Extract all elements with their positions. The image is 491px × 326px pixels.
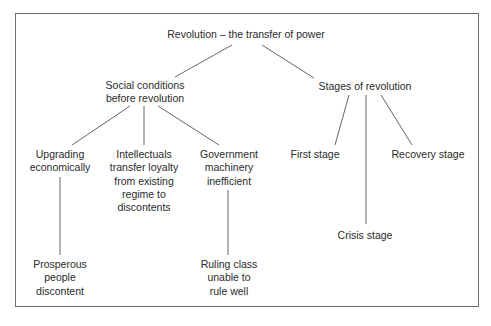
node-crisis-label: Crisis stage — [338, 229, 393, 241]
node-label-line: regime to — [110, 188, 178, 201]
node-stages: Stages of revolution — [319, 80, 412, 93]
node-recovery-stage: Recovery stage — [392, 148, 465, 161]
node-label-line: Government — [200, 148, 258, 161]
node-label-line: economically — [30, 161, 91, 174]
node-label-line: before revolution — [106, 92, 185, 105]
node-recovery-label: Recovery stage — [392, 148, 465, 160]
node-stages-label: Stages of revolution — [319, 80, 412, 92]
node-government: Government machinery inefficient — [200, 148, 258, 188]
node-label-line: machinery — [200, 161, 258, 174]
link-stages-first — [335, 95, 349, 145]
node-prosperous: Prosperous people discontent — [33, 258, 87, 298]
node-label-line: Prosperous — [33, 258, 87, 271]
node-upgrading: Upgrading economically — [30, 148, 91, 175]
node-label-line: from existing — [110, 175, 178, 188]
node-crisis-stage: Crisis stage — [338, 229, 393, 242]
node-label-line: transfer loyalty — [110, 161, 178, 174]
node-ruling-class: Ruling class unable to rule well — [201, 258, 258, 298]
node-first-label: First stage — [290, 148, 339, 160]
link-root-stages — [262, 45, 314, 78]
node-label-line: Upgrading — [30, 148, 91, 161]
node-first-stage: First stage — [290, 148, 339, 161]
node-label-line: Social conditions — [106, 79, 185, 92]
link-social-upgrading — [72, 106, 130, 145]
node-label-line: unable to — [201, 271, 258, 284]
node-label-line: rule well — [201, 285, 258, 298]
node-label-line: people — [33, 271, 87, 284]
link-social-government — [158, 106, 219, 145]
node-label-line: inefficient — [200, 175, 258, 188]
link-root-social — [175, 45, 232, 77]
node-label-line: Ruling class — [201, 258, 258, 271]
node-social-conditions: Social conditions before revolution — [106, 79, 185, 106]
node-root: Revolution – the transfer of power — [167, 28, 325, 41]
node-intellectuals: Intellectuals transfer loyalty from exis… — [110, 148, 178, 214]
link-stages-recovery — [381, 95, 412, 145]
node-label-line: discontents — [110, 201, 178, 214]
node-label-line: discontent — [33, 285, 87, 298]
node-root-label: Revolution – the transfer of power — [167, 28, 325, 40]
node-label-line: Intellectuals — [110, 148, 178, 161]
